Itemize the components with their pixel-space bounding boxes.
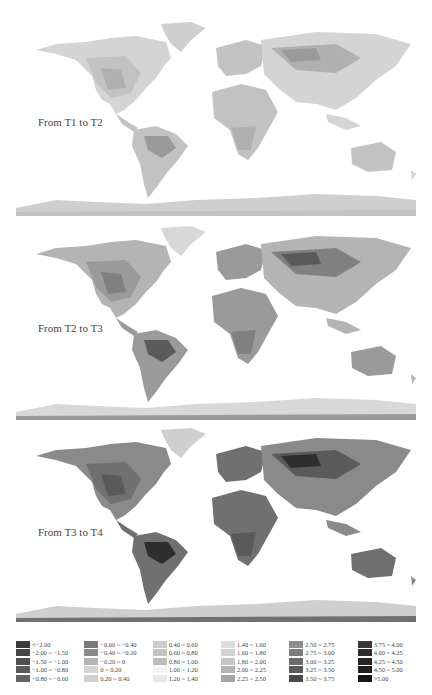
legend-label: 2.50 ~ 2.75 <box>305 641 334 648</box>
legend-item: 3.75 ~ 4.00 <box>358 640 426 648</box>
legend-label: 3.25 ~ 3.50 <box>305 666 334 673</box>
legend-item: 0.80 ~ 1.00 <box>153 657 221 665</box>
australia <box>351 548 396 578</box>
legend-label: −0.20 ~ 0 <box>100 658 125 665</box>
legend-swatch <box>84 675 98 682</box>
legend-label: <−2.00 <box>32 641 50 648</box>
legend-swatch <box>153 675 167 682</box>
legend-column: −0.60 ~ −0.40−0.40 ~ −0.20−0.20 ~ 00 ~ 0… <box>84 640 152 683</box>
legend-swatch <box>84 658 98 665</box>
legend-swatch <box>16 641 30 648</box>
legend: <−2.00−2.00 ~ −1.50−1.50 ~ −1.00−1.00 ~ … <box>16 640 426 683</box>
legend-column: 1.40 ~ 1.601.60 ~ 1.801.80 ~ 2.002.00 ~ … <box>221 640 289 683</box>
legend-swatch <box>153 666 167 673</box>
legend-item: 1.00 ~ 1.20 <box>153 666 221 674</box>
legend-swatch <box>358 641 372 648</box>
legend-swatch <box>289 675 303 682</box>
legend-item: 0.40 ~ 0.60 <box>153 640 221 648</box>
legend-label: 0.80 ~ 1.00 <box>169 658 198 665</box>
legend-swatch <box>221 641 235 648</box>
australia <box>351 142 396 172</box>
legend-item: 4.00 ~ 4.25 <box>358 649 426 657</box>
map-panel-3: From T3 to T4 <box>16 424 416 622</box>
legend-item: 4.50 ~ 5.00 <box>358 666 426 674</box>
legend-item: −0.40 ~ −0.20 <box>84 649 152 657</box>
legend-swatch <box>153 649 167 656</box>
greenland <box>161 22 206 52</box>
legend-item: 2.50 ~ 2.75 <box>289 640 357 648</box>
legend-label: 1.80 ~ 2.00 <box>237 658 266 665</box>
legend-column: <−2.00−2.00 ~ −1.50−1.50 ~ −1.00−1.00 ~ … <box>16 640 84 683</box>
legend-swatch <box>221 666 235 673</box>
legend-item: 1.60 ~ 1.80 <box>221 649 289 657</box>
legend-item: 2.00 ~ 2.25 <box>221 666 289 674</box>
legend-label: 4.50 ~ 5.00 <box>374 666 403 673</box>
legend-item: 0 ~ 0.20 <box>84 666 152 674</box>
legend-swatch <box>84 666 98 673</box>
legend-item: 4.25 ~ 4.50 <box>358 657 426 665</box>
legend-item: 0.20 ~ 0.40 <box>84 674 152 682</box>
legend-column: 3.75 ~ 4.004.00 ~ 4.254.25 ~ 4.504.50 ~ … <box>358 640 426 683</box>
panel-label: From T3 to T4 <box>38 526 103 538</box>
map-panel-1: From T1 to T2 <box>16 18 416 216</box>
legend-swatch <box>358 666 372 673</box>
legend-swatch <box>358 675 372 682</box>
legend-swatch <box>16 658 30 665</box>
world-map <box>16 222 416 420</box>
legend-swatch <box>16 666 30 673</box>
legend-label: 2.00 ~ 2.25 <box>237 666 266 673</box>
legend-label: >5.00 <box>374 675 389 682</box>
legend-item: −1.50 ~ −1.00 <box>16 657 84 665</box>
legend-label: −1.50 ~ −1.00 <box>32 658 68 665</box>
legend-label: −0.80 ~ −0.60 <box>32 675 68 682</box>
australia <box>351 346 396 376</box>
legend-item: 1.80 ~ 2.00 <box>221 657 289 665</box>
legend-swatch <box>289 641 303 648</box>
legend-label: 0.20 ~ 0.40 <box>100 675 129 682</box>
legend-label: 2.75 ~ 3.00 <box>305 649 334 656</box>
legend-swatch <box>289 658 303 665</box>
legend-item: 3.00 ~ 3.25 <box>289 657 357 665</box>
legend-column: 2.50 ~ 2.752.75 ~ 3.003.00 ~ 3.253.25 ~ … <box>289 640 357 683</box>
greenland <box>161 428 206 458</box>
legend-label: −2.00 ~ −1.50 <box>32 649 68 656</box>
legend-swatch <box>358 649 372 656</box>
legend-item: 3.50 ~ 3.75 <box>289 674 357 682</box>
legend-column: 0.40 ~ 0.600.60 ~ 0.800.80 ~ 1.001.00 ~ … <box>153 640 221 683</box>
world-map <box>16 424 416 622</box>
legend-swatch <box>289 649 303 656</box>
legend-item: −0.60 ~ −0.40 <box>84 640 152 648</box>
legend-label: 1.20 ~ 1.40 <box>169 675 198 682</box>
europe <box>216 446 266 482</box>
greenland <box>161 226 206 256</box>
legend-swatch <box>153 641 167 648</box>
legend-label: 3.50 ~ 3.75 <box>305 675 334 682</box>
legend-item: 3.25 ~ 3.50 <box>289 666 357 674</box>
panel-label: From T1 to T2 <box>38 116 103 128</box>
legend-swatch <box>221 649 235 656</box>
legend-label: −0.60 ~ −0.40 <box>100 641 136 648</box>
legend-swatch <box>84 649 98 656</box>
map-panel-2: From T2 to T3 <box>16 222 416 420</box>
legend-label: 0 ~ 0.20 <box>100 666 121 673</box>
panel-label: From T2 to T3 <box>38 322 103 334</box>
legend-label: 1.00 ~ 1.20 <box>169 666 198 673</box>
legend-label: 3.75 ~ 4.00 <box>374 641 403 648</box>
legend-swatch <box>358 658 372 665</box>
legend-label: 2.25 ~ 2.50 <box>237 675 266 682</box>
legend-item: −0.80 ~ −0.60 <box>16 674 84 682</box>
legend-item: 1.40 ~ 1.60 <box>221 640 289 648</box>
legend-swatch <box>221 658 235 665</box>
legend-label: 1.40 ~ 1.60 <box>237 641 266 648</box>
legend-swatch <box>289 666 303 673</box>
legend-item: −1.00 ~ −0.80 <box>16 666 84 674</box>
legend-swatch <box>153 658 167 665</box>
legend-item: −2.00 ~ −1.50 <box>16 649 84 657</box>
legend-label: −0.40 ~ −0.20 <box>100 649 136 656</box>
legend-label: 1.60 ~ 1.80 <box>237 649 266 656</box>
legend-item: −0.20 ~ 0 <box>84 657 152 665</box>
legend-item: 2.75 ~ 3.00 <box>289 649 357 657</box>
legend-swatch <box>16 675 30 682</box>
legend-label: 0.60 ~ 0.80 <box>169 649 198 656</box>
legend-item: >5.00 <box>358 674 426 682</box>
